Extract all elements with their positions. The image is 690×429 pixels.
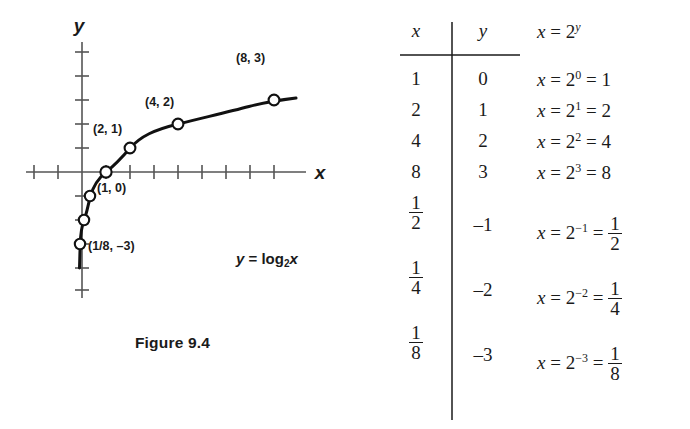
table-row: 1 4 [390,259,442,299]
x-axis-label: x [314,162,327,183]
fraction-numerator: 1 [409,193,423,212]
table-row: 3 [457,162,509,181]
expr-value: 4 [601,131,611,152]
table-row: 1 [390,69,442,88]
point-2-1 [125,143,136,154]
fraction: 1 4 [409,258,423,298]
table-row: 8 [390,162,442,181]
fraction: 12 [608,214,622,254]
table-header-expression-eq: = 2 [545,21,575,42]
table-row: –1 [457,215,509,234]
expr-eq2: = [581,131,601,152]
table-row: –3 [457,345,509,364]
value-table-panel: x y x = 2y 1 0 x = 20 = 1 2 1 x = 21 = 2… [345,0,690,429]
expr-eq2: = [581,100,601,121]
table-row: 2 [390,100,442,119]
fraction-denominator: 8 [608,363,622,383]
fraction-numerator: 1 [608,214,622,233]
table-row: x = 20 = 1 [537,69,611,89]
point-label-2-1: (2, 1) [93,122,122,136]
table-row: 1 [457,100,509,119]
point-label-1-8-neg3: (1/8, –3) [88,239,135,253]
table-row: x = 2−3 = 18 [537,345,622,385]
y-axis [75,42,89,298]
table-row: 4 [390,131,442,150]
table-row: x = 2−1 = 12 [537,215,622,255]
expr-eq1: = 2 [545,352,575,373]
y-axis-label: y [73,15,86,36]
table-row: x = 22 = 4 [537,131,611,151]
x-axis [26,165,306,179]
table-row: 2 [457,131,509,150]
table-row: x = 2−2 = 14 [537,280,622,320]
point-8-3 [269,95,280,106]
table-row: x = 21 = 2 [537,100,611,120]
fraction: 18 [608,344,622,384]
figure-panel: x y (8, 3) (4, 2) (2, 1) (1, 0) (1/8, –3… [0,0,345,429]
expr-eq2: = [581,162,601,183]
point-label-4-2: (4, 2) [145,95,174,109]
logarithm-graph: x y (8, 3) (4, 2) (2, 1) (1, 0) (1/8, –3… [0,0,345,429]
fraction: 1 8 [409,323,423,363]
expr-eq2: = [588,352,608,373]
figure-caption: Figure 9.4 [0,334,345,352]
fraction-denominator: 2 [409,212,423,232]
expr-eq2: = [581,69,601,90]
fraction-denominator: 2 [608,233,622,253]
expr-eq1: = 2 [545,100,575,121]
curve-equation-arg: x [290,250,298,267]
point-1-0 [100,166,111,177]
fraction-denominator: 4 [409,277,423,297]
table-row: 1 2 [390,194,442,234]
point-1-4-neg2 [79,215,89,225]
expr-exponent: −2 [575,286,588,300]
table-header-x: x [390,21,442,40]
expr-exponent: −1 [575,221,588,235]
expr-exponent: −3 [575,351,588,365]
point-label-8-3: (8, 3) [236,51,265,65]
expr-eq1: = 2 [545,69,575,90]
table-row: 1 8 [390,324,442,364]
expr-eq1: = 2 [545,162,575,183]
fraction-numerator: 1 [608,344,622,363]
table-header-expression-exponent: y [575,20,580,34]
expr-eq1: = 2 [545,131,575,152]
expr-value: 1 [601,69,611,90]
table-header-y: y [457,21,509,40]
expr-eq2: = [588,287,608,308]
expr-eq1: = 2 [545,287,575,308]
curve-equation: y = log2x [236,250,298,269]
point-1-2-neg1 [85,191,95,201]
point-1-8-neg3 [75,239,85,249]
table-row: 0 [457,69,509,88]
expr-value: 8 [601,162,611,183]
fraction: 14 [608,279,622,319]
fraction-denominator: 4 [608,298,622,318]
fraction-denominator: 8 [409,342,423,362]
expr-eq1: = 2 [545,222,575,243]
point-label-1-0: (1, 0) [97,181,126,195]
fraction: 1 2 [409,193,423,233]
table-row: –2 [457,280,509,299]
table-header-expression: x = 2y [537,21,580,41]
point-4-2 [173,119,184,130]
fraction-numerator: 1 [409,258,423,277]
fraction-numerator: 1 [409,323,423,342]
fraction-numerator: 1 [608,279,622,298]
expr-value: 2 [601,100,611,121]
expr-eq2: = [588,222,608,243]
table-row: x = 23 = 8 [537,162,611,182]
curve-equation-operator: = log [244,250,284,267]
